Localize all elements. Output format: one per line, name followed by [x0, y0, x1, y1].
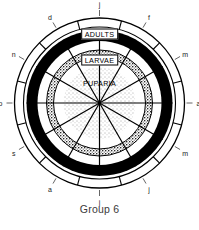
figure-caption: Group 6: [0, 203, 199, 215]
month-label-4: m: [182, 149, 188, 156]
month-label-5: j: [148, 185, 150, 192]
month-label-9: o: [0, 100, 2, 107]
hub: [97, 101, 101, 105]
puparia-ring-label: PUPARIA: [83, 80, 116, 88]
month-label-0: j: [99, 1, 101, 8]
month-label-1: f: [148, 14, 150, 21]
month-label-8: s: [12, 149, 16, 156]
month-label-11: d: [48, 14, 52, 21]
adults-ring-label: ADULTS: [81, 29, 119, 40]
month-label-7: a: [48, 185, 52, 192]
month-label-3: a: [197, 100, 199, 107]
larvae-ring-label: LARVAE: [81, 55, 119, 66]
month-label-10: n: [12, 50, 16, 57]
month-label-2: m: [182, 50, 188, 57]
radial-phenology-figure: ADULTS LARVAE PUPARIA jfmamjjasond Group…: [0, 0, 199, 230]
